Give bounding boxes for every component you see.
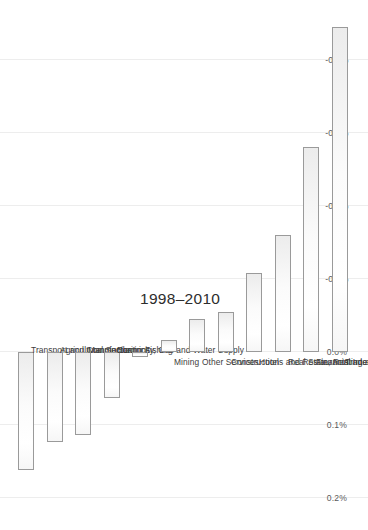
gridline bbox=[0, 497, 368, 498]
bar[interactable] bbox=[218, 312, 234, 352]
bar[interactable] bbox=[303, 147, 319, 352]
axis-tick-label: 0.1% bbox=[323, 420, 351, 430]
bar[interactable] bbox=[104, 352, 120, 398]
chart-rotation-wrapper: 1998–2010 0.2%0.1%0.0%-0.1%-0.2%-0.3%-0.… bbox=[0, 0, 368, 530]
gridline bbox=[0, 132, 368, 133]
bar[interactable] bbox=[189, 319, 205, 352]
bar[interactable] bbox=[332, 27, 348, 352]
bar[interactable] bbox=[47, 352, 63, 442]
bar[interactable] bbox=[75, 352, 91, 435]
category-label: Trade bbox=[345, 357, 367, 367]
axis-tick-label: 0.2% bbox=[323, 493, 351, 503]
bar[interactable] bbox=[246, 273, 262, 352]
chart-title: 1998–2010 bbox=[140, 290, 220, 308]
bar[interactable] bbox=[18, 352, 34, 470]
gridline bbox=[0, 59, 368, 60]
bar[interactable] bbox=[275, 235, 291, 352]
category-label: Mining bbox=[174, 357, 199, 367]
plot-area: 1998–2010 0.2%0.1%0.0%-0.1%-0.2%-0.3%-0.… bbox=[0, 0, 368, 530]
bar[interactable] bbox=[161, 340, 177, 352]
chart-figure: 1998–2010 0.2%0.1%0.0%-0.1%-0.2%-0.3%-0.… bbox=[0, 0, 368, 530]
